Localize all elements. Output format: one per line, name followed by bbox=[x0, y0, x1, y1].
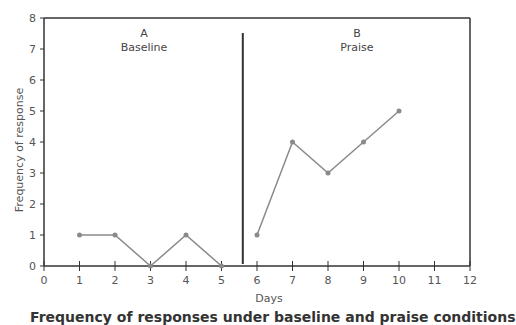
x-tick-label: 6 bbox=[254, 274, 261, 287]
phase-name-label: Praise bbox=[340, 41, 373, 54]
data-point bbox=[361, 140, 366, 145]
x-tick-label: 8 bbox=[325, 274, 332, 287]
data-point bbox=[326, 171, 331, 176]
x-tick-label: 3 bbox=[147, 274, 154, 287]
y-tick-label: 8 bbox=[29, 12, 36, 25]
y-tick-label: 1 bbox=[29, 229, 36, 242]
y-tick-label: 7 bbox=[29, 43, 36, 56]
x-tick-label: 5 bbox=[218, 274, 225, 287]
data-point bbox=[148, 264, 153, 269]
phase-name-label: Baseline bbox=[121, 41, 168, 54]
y-tick-label: 0 bbox=[29, 260, 36, 273]
x-tick-label: 9 bbox=[360, 274, 367, 287]
y-tick-label: 6 bbox=[29, 74, 36, 87]
data-point bbox=[77, 233, 82, 238]
x-tick-label: 11 bbox=[428, 274, 442, 287]
data-point bbox=[397, 109, 402, 114]
y-tick-label: 5 bbox=[29, 105, 36, 118]
y-tick-label: 4 bbox=[29, 136, 36, 149]
x-tick-label: 2 bbox=[112, 274, 119, 287]
x-tick-label: 7 bbox=[289, 274, 296, 287]
x-tick-label: 10 bbox=[392, 274, 406, 287]
x-tick-label: 4 bbox=[183, 274, 190, 287]
data-point bbox=[113, 233, 118, 238]
data-point bbox=[219, 264, 224, 269]
x-axis-title: Days bbox=[255, 292, 283, 305]
x-tick-label: 12 bbox=[463, 274, 477, 287]
y-tick-label: 2 bbox=[29, 198, 36, 211]
x-tick-label: 1 bbox=[76, 274, 83, 287]
y-axis-title: Frequency of response bbox=[13, 88, 26, 213]
phase-letter-label: B bbox=[353, 27, 361, 40]
data-point bbox=[184, 233, 189, 238]
y-tick-label: 3 bbox=[29, 167, 36, 180]
x-tick-label: 0 bbox=[41, 274, 48, 287]
data-point bbox=[290, 140, 295, 145]
data-point bbox=[255, 233, 260, 238]
phase-letter-label: A bbox=[140, 27, 148, 40]
figure-caption: Frequency of responses under baseline an… bbox=[30, 309, 516, 325]
